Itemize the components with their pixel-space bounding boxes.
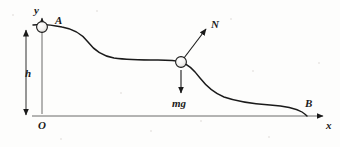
- paper-speck: [252, 70, 254, 72]
- ball-at-point-a: [37, 22, 48, 33]
- point-a-label: A: [55, 15, 62, 26]
- height-label: h: [25, 68, 31, 79]
- x-axis-label: x: [326, 120, 332, 131]
- diagram-canvas: [0, 0, 340, 147]
- y-axis-label: y: [34, 5, 39, 16]
- paper-speck: [60, 138, 62, 140]
- paper-speck: [230, 18, 232, 20]
- paper-speck: [200, 120, 202, 122]
- normal-force-arrow: [184, 29, 206, 58]
- hill-curve-path: [33, 25, 307, 116]
- physics-diagram-figure: y x O A B h N mg: [0, 0, 340, 147]
- ball-at-point-p: [176, 57, 187, 68]
- weight-force-label: mg: [172, 98, 186, 109]
- paper-speck: [12, 14, 14, 16]
- normal-force-label: N: [211, 19, 219, 30]
- paper-speck: [96, 10, 98, 12]
- paper-speck: [150, 130, 152, 132]
- paper-speck: [120, 92, 122, 94]
- paper-speck: [318, 62, 320, 64]
- paper-speck: [268, 136, 270, 138]
- point-b-label: B: [305, 98, 312, 109]
- origin-label: O: [38, 120, 46, 131]
